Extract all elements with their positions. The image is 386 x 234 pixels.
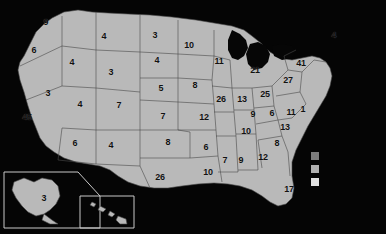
- state-label-ne: 5: [159, 84, 164, 93]
- state-label-sc: 8: [275, 139, 280, 148]
- alaska-inset-label: 3: [42, 194, 47, 203]
- state-label-in: 13: [237, 95, 247, 104]
- state-label-wv: 6: [270, 109, 275, 118]
- us-choropleth-map: 9644345437643457826108126101126132125910…: [0, 0, 386, 234]
- state-label-nv: 3: [46, 89, 51, 98]
- state-label-la: 10: [203, 168, 213, 177]
- states-layer: [18, 10, 332, 206]
- state-label-tx: 26: [155, 173, 165, 182]
- state-label-nd: 3: [153, 31, 158, 40]
- state-label-pa: 41: [296, 59, 306, 68]
- state-label-oh: 25: [260, 90, 270, 99]
- state-label-wi: 11: [214, 57, 223, 66]
- state-label-fl: 17: [284, 185, 294, 194]
- map-canvas: [0, 0, 386, 234]
- state-label-or: 6: [32, 46, 37, 55]
- state-label-mi: 21: [250, 66, 260, 75]
- legend-swatch-mid: [311, 165, 319, 173]
- hawaii-inset: [80, 196, 134, 228]
- state-label-tn: 10: [241, 127, 251, 136]
- state-label-mo: 12: [199, 113, 209, 122]
- state-label-nm: 4: [109, 141, 114, 150]
- state-label-wa: 9: [44, 18, 49, 27]
- state-label-ok: 8: [166, 138, 171, 147]
- state-label-co: 7: [117, 101, 122, 110]
- state-label-mt: 4: [102, 32, 107, 41]
- state-label-mn: 10: [184, 41, 194, 50]
- state-label-ks: 7: [161, 112, 166, 121]
- state-label-ia: 8: [193, 81, 198, 90]
- state-label-va: 11: [286, 108, 295, 117]
- state-label-ny: 27: [283, 76, 293, 85]
- state-label-ut: 4: [78, 100, 83, 109]
- state-label-ms: 7: [223, 156, 228, 165]
- state-label-ar: 6: [204, 143, 209, 152]
- state-label-me: 4: [332, 31, 337, 40]
- legend-swatch-high: [311, 178, 319, 186]
- legend-swatch-low: [311, 152, 319, 160]
- state-label-sd: 4: [155, 56, 160, 65]
- legend: [311, 152, 319, 186]
- state-label-ky: 9: [251, 110, 256, 119]
- state-label-id: 4: [70, 58, 75, 67]
- state-region-west: [18, 10, 332, 206]
- state-label-ca: 45: [22, 113, 32, 122]
- state-label-ga: 12: [258, 153, 268, 162]
- state-label-az: 6: [73, 139, 78, 148]
- state-label-nc: 13: [280, 123, 290, 132]
- alaska-inset: [4, 172, 100, 228]
- state-label-al: 9: [239, 156, 244, 165]
- state-label-wy: 3: [109, 68, 114, 77]
- state-label-il: 26: [216, 95, 226, 104]
- state-label-dc: 1: [301, 105, 306, 114]
